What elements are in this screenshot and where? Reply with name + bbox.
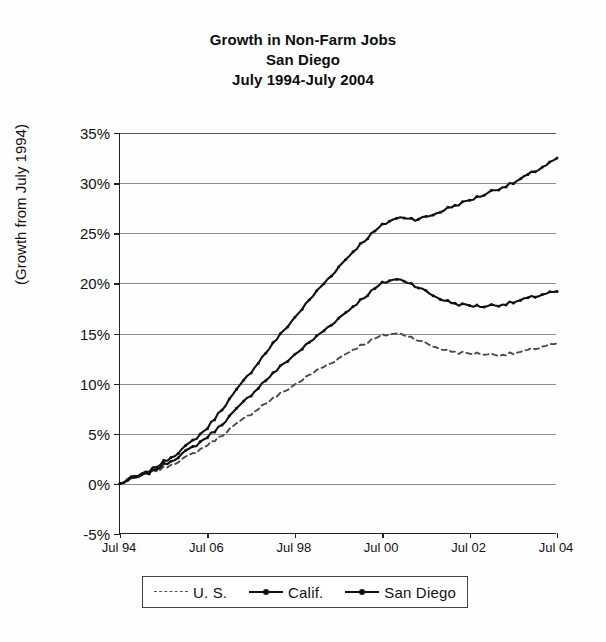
legend-item-label: Calif. xyxy=(288,584,323,601)
series-marker xyxy=(556,290,559,293)
series-marker xyxy=(315,334,318,337)
y-axis-tick-label: 15% xyxy=(52,325,110,342)
series-marker xyxy=(242,399,245,402)
series-marker xyxy=(468,304,471,307)
series-marker xyxy=(191,439,194,442)
chart-legend: U. S.Calif.San Diego xyxy=(142,576,468,608)
series-line-calif xyxy=(120,279,557,483)
y-axis-tick-label: 5% xyxy=(52,425,110,442)
series-marker xyxy=(352,250,355,253)
series-marker xyxy=(177,456,180,459)
series-marker xyxy=(526,296,529,299)
series-marker xyxy=(257,362,260,365)
series-marker xyxy=(439,211,442,214)
y-axis-tick-label: 30% xyxy=(52,175,110,192)
series-marker xyxy=(279,332,282,335)
series-marker xyxy=(410,282,413,285)
series-marker xyxy=(162,459,165,462)
series-marker xyxy=(286,360,289,363)
series-marker xyxy=(475,304,478,307)
series-marker xyxy=(483,305,486,308)
series-marker xyxy=(228,415,231,418)
series-marker xyxy=(505,185,508,188)
series-marker xyxy=(264,352,267,355)
series-marker xyxy=(169,460,172,463)
series-marker xyxy=(133,475,136,478)
title-line-2: San Diego xyxy=(0,50,606,70)
series-marker xyxy=(242,378,245,381)
y-axis-tick-label: 25% xyxy=(52,225,110,242)
series-marker xyxy=(271,341,274,344)
x-axis-tick-label: Jul 02 xyxy=(451,540,486,555)
series-marker xyxy=(483,194,486,197)
series-marker xyxy=(373,229,376,232)
legend-item-label: San Diego xyxy=(384,584,456,601)
series-marker xyxy=(250,395,253,398)
series-marker xyxy=(381,222,384,225)
series-marker xyxy=(497,188,500,191)
series-marker xyxy=(359,298,362,301)
series-marker xyxy=(337,317,340,320)
series-marker xyxy=(461,302,464,305)
series-marker xyxy=(177,452,180,455)
y-axis-tick-label: 20% xyxy=(52,275,110,292)
series-marker xyxy=(169,456,172,459)
series-marker xyxy=(271,371,274,374)
x-axis-tick-label: Jul 00 xyxy=(364,540,399,555)
y-axis-tick-label: 0% xyxy=(52,475,110,492)
series-marker xyxy=(184,449,187,452)
series-marker xyxy=(424,215,427,218)
legend-marker-dot-icon xyxy=(263,589,269,595)
x-axis-tick-labels: Jul 94Jul 06Jul 98Jul 00Jul 02Jul 04 xyxy=(119,540,556,562)
series-marker xyxy=(213,418,216,421)
series-marker xyxy=(519,177,522,180)
series-marker xyxy=(279,364,282,367)
y-axis-tick-label: 10% xyxy=(52,375,110,392)
series-marker xyxy=(373,287,376,290)
series-line-u-s xyxy=(120,333,557,483)
x-axis-tick-label: Jul 94 xyxy=(102,540,137,555)
plot-area xyxy=(119,133,556,534)
series-marker xyxy=(556,157,559,160)
series-marker xyxy=(322,329,325,332)
series-marker xyxy=(454,204,457,207)
series-marker xyxy=(519,299,522,302)
series-marker xyxy=(220,409,223,412)
legend-key-icon xyxy=(249,586,283,598)
series-marker xyxy=(526,173,529,176)
series-marker xyxy=(308,341,311,344)
series-marker xyxy=(235,407,238,410)
series-marker xyxy=(206,436,209,439)
series-marker xyxy=(344,311,347,314)
series-marker xyxy=(395,217,398,220)
series-marker xyxy=(512,182,515,185)
series-marker xyxy=(199,433,202,436)
series-marker xyxy=(337,266,340,269)
series-marker xyxy=(257,387,260,390)
series-marker xyxy=(410,217,413,220)
series-marker xyxy=(155,466,158,469)
series-marker xyxy=(432,294,435,297)
title-line-3: July 1994-July 2004 xyxy=(0,70,606,90)
series-marker xyxy=(446,299,449,302)
series-marker xyxy=(534,170,537,173)
series-marker xyxy=(424,289,427,292)
series-marker xyxy=(250,371,253,374)
series-lines xyxy=(120,133,557,534)
series-marker xyxy=(293,353,296,356)
series-marker xyxy=(352,305,355,308)
series-marker xyxy=(454,302,457,305)
series-marker xyxy=(322,282,325,285)
series-marker xyxy=(206,427,209,430)
legend-line-swatch xyxy=(154,591,188,592)
series-marker xyxy=(534,296,537,299)
series-marker xyxy=(366,237,369,240)
legend-item-san-diego[interactable]: San Diego xyxy=(345,584,456,601)
legend-item-u-s[interactable]: U. S. xyxy=(154,584,227,601)
series-marker xyxy=(220,424,223,427)
series-marker xyxy=(191,445,194,448)
series-marker xyxy=(468,199,471,202)
series-marker xyxy=(264,379,267,382)
legend-item-calif[interactable]: Calif. xyxy=(249,584,323,601)
series-marker xyxy=(548,160,551,163)
